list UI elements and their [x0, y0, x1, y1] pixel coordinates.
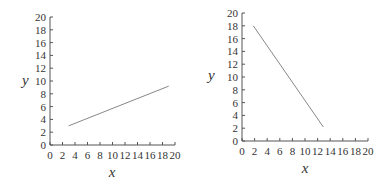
x-tick-label: 0: [239, 145, 245, 157]
x-tick-label: 16: [337, 145, 349, 157]
y-axis-title: y: [20, 72, 29, 88]
y-tick-label: 18: [35, 24, 47, 36]
y-tick-label: 16: [227, 33, 239, 45]
x-tick-label: 18: [350, 145, 362, 157]
x-axis-title: x: [108, 164, 116, 180]
x-tick-label: 16: [145, 149, 157, 161]
y-tick-label: 0: [41, 139, 47, 151]
y-tick-label: 4: [41, 113, 47, 125]
y-tick-label: 6: [233, 97, 239, 109]
y-tick-label: 2: [41, 126, 47, 138]
x-tick-label: 6: [277, 145, 283, 157]
charts-canvas: 0246810121416182002468101214161820yx0246…: [0, 0, 385, 190]
y-tick-label: 8: [41, 88, 47, 100]
x-tick-label: 18: [157, 149, 169, 161]
x-tick-label: 8: [97, 149, 103, 161]
x-tick-label: 4: [264, 145, 270, 157]
x-tick-label: 12: [120, 149, 131, 161]
y-tick-label: 8: [233, 84, 239, 96]
y-tick-label: 20: [227, 7, 239, 19]
y-tick-label: 4: [233, 109, 239, 121]
y-tick-label: 10: [227, 71, 239, 83]
y-tick-label: 14: [35, 49, 47, 61]
y-tick-label: 12: [35, 62, 46, 74]
y-tick-label: 6: [41, 101, 47, 113]
data-line: [253, 26, 323, 127]
x-tick-label: 10: [107, 149, 119, 161]
x-tick-label: 14: [132, 149, 144, 161]
y-tick-label: 12: [227, 58, 238, 70]
y-tick-label: 0: [233, 135, 239, 147]
data-line: [69, 86, 169, 126]
y-tick-label: 16: [35, 37, 47, 49]
chart-1: 0246810121416182002468101214161820yx: [20, 11, 181, 180]
y-tick-label: 10: [35, 75, 47, 87]
y-axis-title: y: [206, 67, 215, 83]
y-tick-label: 14: [227, 45, 239, 57]
x-tick-label: 2: [252, 145, 258, 157]
y-tick-label: 2: [233, 122, 239, 134]
chart-2: 0246810121416182002468101214161820yx: [206, 7, 374, 176]
x-tick-label: 4: [72, 149, 78, 161]
y-tick-label: 18: [227, 20, 239, 32]
x-tick-label: 14: [325, 145, 337, 157]
x-tick-label: 2: [60, 149, 66, 161]
x-tick-label: 0: [47, 149, 53, 161]
x-tick-label: 20: [363, 145, 375, 157]
y-tick-label: 20: [35, 11, 47, 23]
x-tick-label: 8: [290, 145, 296, 157]
x-tick-label: 20: [170, 149, 182, 161]
x-tick-label: 12: [312, 145, 323, 157]
x-tick-label: 10: [300, 145, 312, 157]
x-axis-title: x: [301, 160, 309, 176]
x-tick-label: 6: [85, 149, 91, 161]
